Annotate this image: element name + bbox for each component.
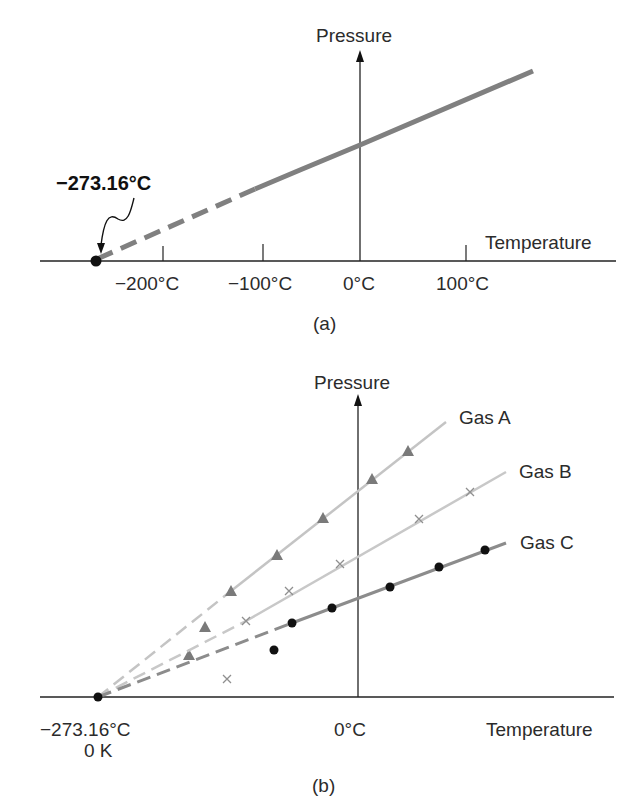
dot-marker-icon: [386, 583, 395, 592]
tick-label-100: 100°C: [436, 273, 489, 294]
dot-marker-icon: [328, 604, 337, 613]
panel-b: Pressure Gas A Gas B Gas C −273.16°C 0 K…: [40, 372, 614, 796]
arrow-up-icon: [354, 394, 362, 406]
dot-marker-icon: [288, 619, 297, 628]
x-axis-label: Temperature: [486, 719, 593, 740]
tick-label-neg200: −200°C: [115, 273, 179, 294]
absolute-zero-point: [94, 693, 103, 702]
triangle-marker-icon: [199, 621, 211, 632]
tick-label-absolute-zero: −273.16°C: [40, 719, 131, 740]
dot-marker-icon: [270, 646, 279, 655]
arrow-up-icon: [356, 50, 364, 62]
triangle-marker-icon: [317, 512, 329, 523]
x-axis-label: Temperature: [485, 232, 592, 253]
data-line: [255, 71, 533, 189]
cross-marker-icon: [285, 587, 293, 595]
series-gas-a: [98, 422, 446, 697]
dot-marker-icon: [435, 563, 444, 572]
y-axis-label: Pressure: [316, 25, 392, 46]
tick-label-kelvin: 0 K: [84, 740, 113, 761]
cross-marker-icon: [223, 675, 231, 683]
gas-c-line: [292, 543, 506, 623]
dot-marker-icon: [481, 546, 490, 555]
panel-a: −273.16°C Pressure Temperature −200°C −1…: [40, 25, 616, 334]
triangle-marker-icon: [402, 445, 414, 456]
gas-b-label: Gas B: [519, 461, 572, 482]
series-gas-c: [98, 543, 506, 697]
triangle-marker-icon: [366, 473, 378, 484]
cross-marker-icon: [242, 617, 250, 625]
caption-b: (b): [312, 775, 335, 796]
gas-c-label: Gas C: [520, 532, 574, 553]
series-gas-b: [98, 472, 506, 697]
cross-markers: [223, 488, 474, 683]
gas-a-label: Gas A: [459, 407, 511, 428]
gas-b-extrapolation: [98, 621, 246, 697]
gas-a-extrapolation: [98, 591, 231, 697]
arrow-down-icon: [97, 243, 105, 254]
y-axis-label: Pressure: [314, 372, 390, 393]
tick-label-neg100: −100°C: [228, 273, 292, 294]
tick-label-0: 0°C: [343, 273, 375, 294]
annotation-label: −273.16°C: [56, 172, 151, 194]
absolute-zero-point: [91, 256, 102, 267]
tick-label-0: 0°C: [334, 719, 366, 740]
extrapolation-line: [97, 189, 255, 259]
figure: −273.16°C Pressure Temperature −200°C −1…: [0, 0, 644, 808]
annotation-arrow: [101, 198, 134, 245]
caption-a: (a): [313, 313, 336, 334]
